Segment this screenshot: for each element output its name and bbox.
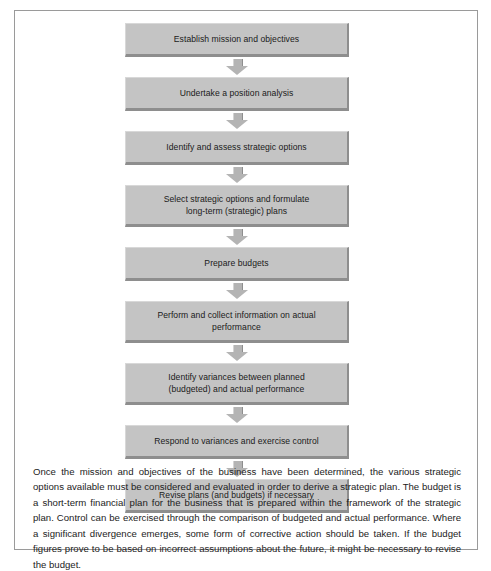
flow-step-5: Prepare budgets bbox=[125, 247, 349, 281]
flow-step-7: Identify variances between planned (budg… bbox=[125, 363, 349, 405]
arrow-head bbox=[226, 174, 248, 183]
flow-step-2-label: Undertake a position analysis bbox=[180, 87, 294, 99]
figure-caption: Once the mission and objectives of the b… bbox=[33, 464, 461, 571]
arrow-head bbox=[226, 414, 248, 423]
flow-step-6: Perform and collect information on actua… bbox=[125, 301, 349, 343]
flow-step-7-label-group: Identify variances between planned (budg… bbox=[168, 371, 304, 395]
flow-step-7-label-line-2: (budgeted) and actual performance bbox=[168, 383, 304, 395]
flow-step-6-label-line-1: Perform and collect information on actua… bbox=[157, 309, 315, 321]
flow-step-3: Identify and assess strategic options bbox=[125, 131, 349, 165]
down-block-arrow-icon bbox=[226, 407, 248, 423]
flow-step-6-label-line-2: performance bbox=[157, 321, 315, 333]
flow-step-3-label: Identify and assess strategic options bbox=[166, 141, 306, 153]
flow-step-5-label: Prepare budgets bbox=[204, 257, 268, 269]
planning-control-flowchart: Establish mission and objectives Underta… bbox=[121, 23, 353, 513]
flow-step-8-label: Respond to variances and exercise contro… bbox=[154, 435, 318, 447]
flow-step-4: Select strategic options and formulate l… bbox=[125, 185, 349, 227]
down-block-arrow-icon bbox=[226, 283, 248, 299]
arrow-head bbox=[226, 120, 248, 129]
flow-step-1-label: Establish mission and objectives bbox=[174, 33, 299, 45]
down-block-arrow-icon bbox=[226, 113, 248, 129]
arrow-head bbox=[226, 290, 248, 299]
arrow-head bbox=[226, 236, 248, 245]
flow-step-4-label-line-2: long-term (strategic) plans bbox=[164, 205, 310, 217]
flow-step-7-label-line-1: Identify variances between planned bbox=[168, 371, 304, 383]
flow-step-2: Undertake a position analysis bbox=[125, 77, 349, 111]
arrow-head bbox=[226, 352, 248, 361]
flow-step-4-label-line-1: Select strategic options and formulate bbox=[164, 193, 310, 205]
flow-step-4-label-group: Select strategic options and formulate l… bbox=[164, 193, 310, 217]
figure-page: Establish mission and objectives Underta… bbox=[0, 0, 491, 571]
figure-frame: Establish mission and objectives Underta… bbox=[14, 10, 478, 550]
flow-step-8: Respond to variances and exercise contro… bbox=[125, 425, 349, 459]
down-block-arrow-icon bbox=[226, 229, 248, 245]
down-block-arrow-icon bbox=[226, 59, 248, 75]
down-block-arrow-icon bbox=[226, 345, 248, 361]
arrow-head bbox=[226, 66, 248, 75]
flow-step-6-label-group: Perform and collect information on actua… bbox=[157, 309, 315, 333]
flow-step-1: Establish mission and objectives bbox=[125, 23, 349, 57]
down-block-arrow-icon bbox=[226, 167, 248, 183]
